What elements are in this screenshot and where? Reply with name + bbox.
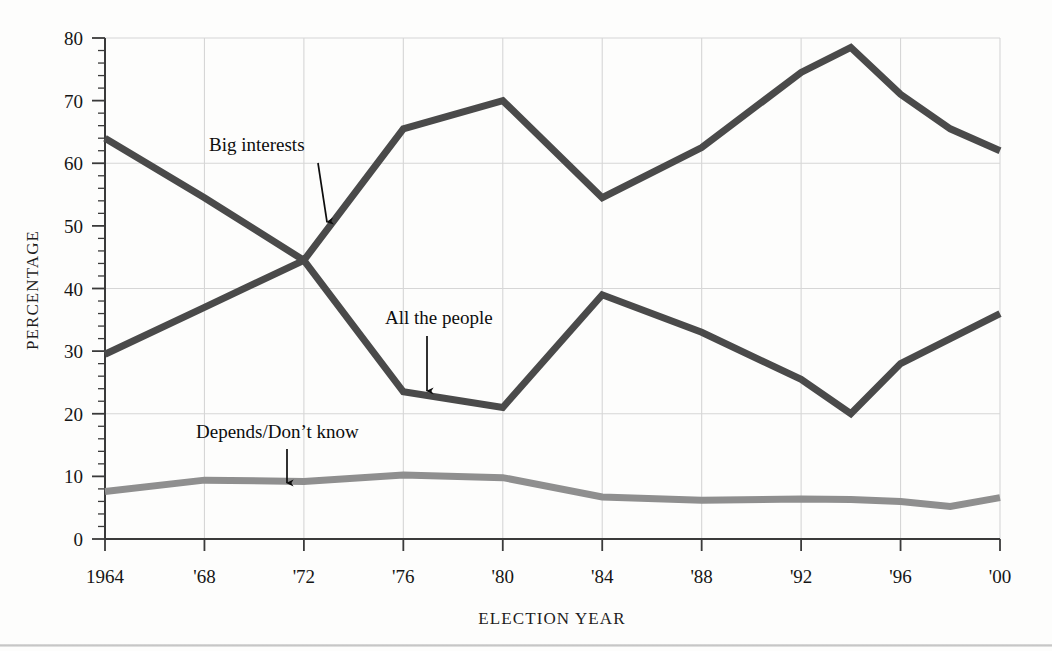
x-tick-label-76: '76 <box>392 566 414 587</box>
y-tick-label-60: 60 <box>64 153 83 174</box>
y-tick-label-0: 0 <box>74 529 84 550</box>
y-tick-label-40: 40 <box>64 279 83 300</box>
x-tick-label-84: '84 <box>591 566 614 587</box>
page-bottom-rule <box>0 644 1052 647</box>
annotation-label-all-the-people: All the people <box>385 307 493 328</box>
y-tick-label-20: 20 <box>64 404 83 425</box>
y-tick-label-10: 10 <box>64 466 83 487</box>
y-tick-label-30: 30 <box>64 341 83 362</box>
y-axis-title: PERCENTAGE <box>23 230 42 350</box>
y-tick-label-50: 50 <box>64 216 83 237</box>
x-tick-label-72: '72 <box>293 566 315 587</box>
line-chart-canvas: 01020304050607080 1964'68'72'76'80'84'88… <box>0 0 1052 651</box>
y-axis-tick-labels-group: 01020304050607080 <box>64 28 83 550</box>
y-tick-label-70: 70 <box>64 91 83 112</box>
annotation-label-big-interests: Big interests <box>209 134 305 155</box>
chart-figure: 01020304050607080 1964'68'72'76'80'84'88… <box>0 0 1052 651</box>
x-axis-title: ELECTION YEAR <box>478 609 625 628</box>
x-tick-label-1964: 1964 <box>86 566 125 587</box>
x-tick-label-88: '88 <box>690 566 712 587</box>
y-tick-label-80: 80 <box>64 28 83 49</box>
x-tick-label-96: '96 <box>889 566 911 587</box>
x-tick-label-80: '80 <box>492 566 514 587</box>
x-tick-label-00: '00 <box>989 566 1011 587</box>
x-tick-label-68: '68 <box>193 566 215 587</box>
x-tick-label-92: '92 <box>790 566 812 587</box>
annotation-label-depends-dont-know: Depends/Don’t know <box>196 421 359 442</box>
